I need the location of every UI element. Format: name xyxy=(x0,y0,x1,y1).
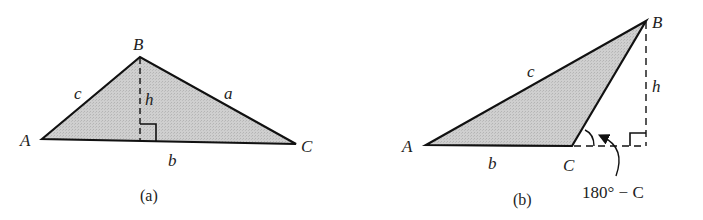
vertex-label-b-C: C xyxy=(563,156,575,175)
right-angle-marker-b xyxy=(630,133,646,146)
caption-b: (b) xyxy=(513,191,532,209)
height-label-b: h xyxy=(652,77,661,96)
side-label-a-b: b xyxy=(168,151,177,170)
height-label-a: h xyxy=(145,90,154,109)
figure-a: B A C c a b h (a) xyxy=(19,35,313,205)
vertex-label-a-C: C xyxy=(301,137,313,156)
side-label-a-c: c xyxy=(74,84,82,103)
side-label-a-a: a xyxy=(224,84,233,103)
exterior-angle-arc-b xyxy=(585,130,594,146)
angle-pointer-arrow-b xyxy=(603,137,619,176)
side-label-b-c: c xyxy=(527,62,535,81)
figure-b: B A C c b h (b) 180° − C xyxy=(401,13,663,209)
side-label-b-b: b xyxy=(488,154,497,173)
vertex-label-b-B: B xyxy=(652,13,663,32)
triangle-diagrams: B A C c a b h (a) B A C c b h (b) 180° −… xyxy=(0,0,703,220)
vertex-label-a-A: A xyxy=(19,131,31,150)
triangle-b-shape xyxy=(426,21,646,146)
caption-a: (a) xyxy=(140,187,158,205)
angle-label-b: 180° − C xyxy=(582,183,644,202)
vertex-label-b-A: A xyxy=(401,137,413,156)
vertex-label-a-B: B xyxy=(133,35,144,54)
